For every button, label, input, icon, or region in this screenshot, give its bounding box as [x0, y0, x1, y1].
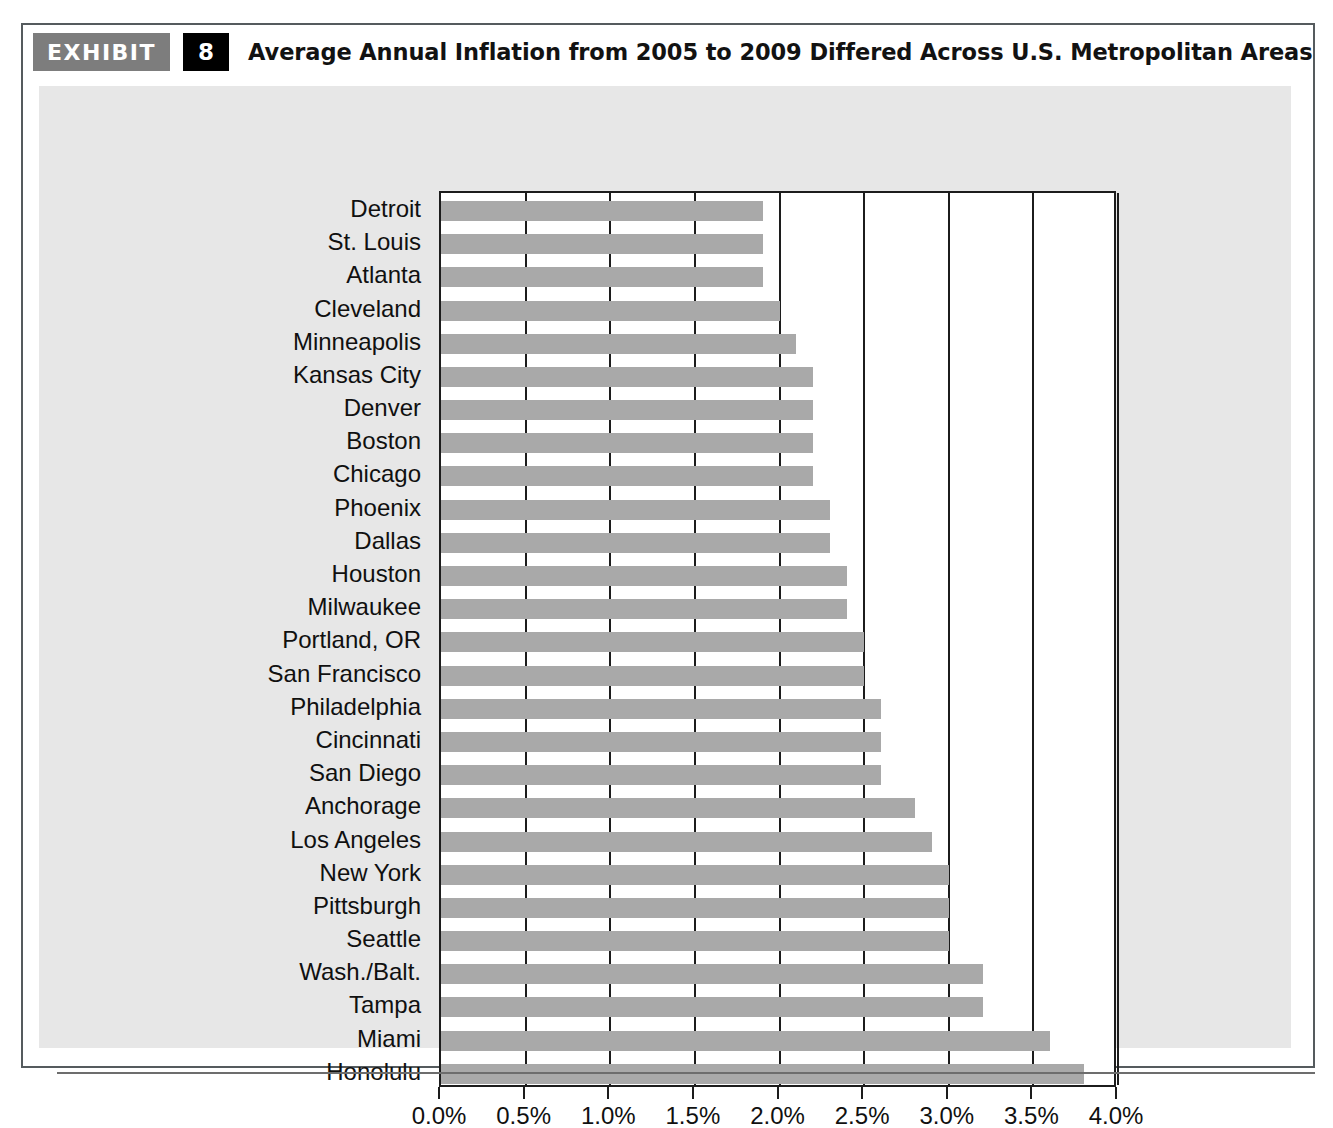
category-label: Atlanta — [346, 262, 421, 288]
bar — [441, 466, 813, 486]
category-label: Minneapolis — [293, 329, 421, 355]
bar — [441, 1031, 1050, 1051]
category-label: Tampa — [349, 992, 421, 1018]
x-tick — [523, 1087, 525, 1099]
x-tick — [777, 1087, 779, 1099]
category-label: Philadelphia — [290, 694, 421, 720]
category-label: Pittsburgh — [313, 893, 421, 919]
x-tick-label: 4.0% — [1089, 1102, 1144, 1128]
category-label: Chicago — [333, 461, 421, 487]
exhibit-tag: EXHIBIT — [33, 33, 170, 71]
bar — [441, 898, 949, 918]
bar — [441, 533, 830, 553]
category-label: Phoenix — [334, 495, 421, 521]
category-label: Milwaukee — [308, 594, 421, 620]
x-tick — [1030, 1087, 1032, 1099]
category-axis-labels: DetroitSt. LouisAtlantaClevelandMinneapo… — [159, 191, 431, 1087]
bar — [441, 699, 881, 719]
gridline — [1117, 193, 1119, 1085]
bar — [441, 732, 881, 752]
bar — [441, 566, 847, 586]
category-label: Boston — [346, 428, 421, 454]
category-label: San Francisco — [268, 661, 421, 687]
x-tick — [438, 1087, 440, 1099]
category-label: Anchorage — [305, 793, 421, 819]
category-label: St. Louis — [328, 229, 421, 255]
category-label: New York — [320, 860, 421, 886]
x-tick — [861, 1087, 863, 1099]
footer-divider — [57, 1072, 1315, 1074]
x-tick-label: 0.0% — [412, 1102, 467, 1128]
category-label: Denver — [344, 395, 421, 421]
category-label: Cleveland — [314, 296, 421, 322]
x-tick-label: 2.5% — [835, 1102, 890, 1128]
x-tick — [1115, 1087, 1117, 1099]
bar-series — [441, 193, 1114, 1085]
x-tick — [692, 1087, 694, 1099]
page-title: Average Annual Inflation from 2005 to 20… — [248, 33, 1312, 71]
category-label: Kansas City — [293, 362, 421, 388]
exhibit-header: EXHIBIT 8 Average Annual Inflation from … — [33, 33, 1312, 71]
category-label: Portland, OR — [282, 627, 421, 653]
bar — [441, 267, 763, 287]
bar — [441, 798, 915, 818]
category-label: Detroit — [350, 196, 421, 222]
bar — [441, 433, 813, 453]
bar — [441, 632, 864, 652]
category-label: Wash./Balt. — [299, 959, 421, 985]
bar — [441, 367, 813, 387]
category-label: Los Angeles — [290, 827, 421, 853]
bar — [441, 765, 881, 785]
bar — [441, 666, 864, 686]
x-tick-label: 3.0% — [919, 1102, 974, 1128]
category-label: Miami — [357, 1026, 421, 1052]
x-tick — [607, 1087, 609, 1099]
category-label: San Diego — [309, 760, 421, 786]
category-label: Cincinnati — [316, 727, 421, 753]
bar — [441, 400, 813, 420]
bar — [441, 301, 780, 321]
bar — [441, 599, 847, 619]
bar — [441, 997, 983, 1017]
bar — [441, 931, 949, 951]
bar — [441, 964, 983, 984]
x-tick-label: 0.5% — [496, 1102, 551, 1128]
category-label: Houston — [332, 561, 421, 587]
category-label: Dallas — [354, 528, 421, 554]
x-axis-ticks — [439, 1087, 1116, 1099]
bar — [441, 334, 796, 354]
bar — [441, 500, 830, 520]
x-axis-tick-labels: 0.0%0.5%1.0%1.5%2.0%2.5%3.0%3.5%4.0% — [439, 1102, 1116, 1128]
bar — [441, 865, 949, 885]
x-tick-label: 1.5% — [666, 1102, 721, 1128]
plot-area — [439, 191, 1116, 1087]
category-label: Seattle — [346, 926, 421, 952]
x-tick — [946, 1087, 948, 1099]
exhibit-number-badge: 8 — [183, 33, 229, 71]
x-tick-label: 3.5% — [1004, 1102, 1059, 1128]
bar — [441, 201, 763, 221]
bar — [441, 832, 932, 852]
bar — [441, 234, 763, 254]
x-tick-label: 1.0% — [581, 1102, 636, 1128]
chart-panel: DetroitSt. LouisAtlantaClevelandMinneapo… — [39, 86, 1291, 1048]
x-tick-label: 2.0% — [750, 1102, 805, 1128]
